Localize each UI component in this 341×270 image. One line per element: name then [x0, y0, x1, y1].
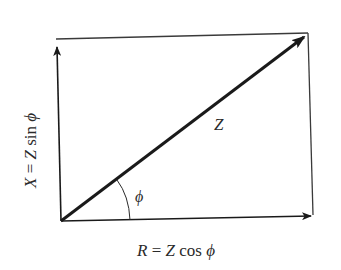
resistance-equation: R = Z cos ϕ	[136, 241, 215, 260]
sin-function: sin	[21, 122, 40, 150]
reactance-equation: X = Z sin ϕ	[21, 113, 40, 189]
frame-right-line	[308, 33, 313, 215]
resistance-symbol: R	[136, 241, 148, 260]
impedance-diagram: Z ϕ R = Z cos ϕ X = Z sin ϕ	[0, 0, 341, 270]
frame-top-line	[56, 33, 308, 39]
equals-sign: =	[147, 241, 165, 260]
angle-label: ϕ	[135, 188, 143, 206]
angle-arc	[117, 180, 130, 220]
equals-sign: =	[21, 160, 40, 178]
reactance-vector	[57, 47, 61, 221]
cos-function: cos	[175, 241, 206, 260]
impedance-vector	[61, 37, 304, 221]
impedance-label: Z	[214, 115, 224, 134]
angle-symbol: ϕ	[206, 241, 215, 260]
angle-symbol: ϕ	[21, 113, 40, 122]
resistance-vector	[61, 216, 311, 221]
reactance-symbol: X	[21, 177, 40, 189]
